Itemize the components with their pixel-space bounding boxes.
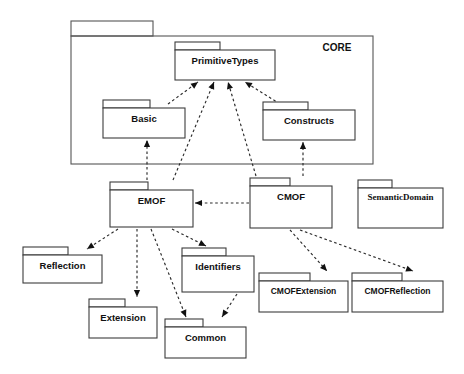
dependency-cmof-to-emof [195, 200, 249, 206]
package-emof[interactable]: EMOF [110, 182, 193, 227]
package-tab-common [165, 319, 203, 327]
dependency-cmof-to-cmofextension [290, 230, 329, 273]
package-label-common: Common [185, 332, 226, 343]
dependency-basic-to-primitivetypes [168, 80, 200, 104]
package-tab-constructs [263, 102, 308, 110]
package-tab-cmofreflection [352, 273, 402, 281]
uml-package-diagram: CORE PrimitiveTypesBasicConstructsEMOFCM… [0, 0, 464, 374]
diagram-canvas: CORE PrimitiveTypesBasicConstructsEMOFCM… [0, 0, 464, 374]
package-tab-emof [110, 182, 148, 190]
package-tab-reflection [23, 247, 68, 255]
dependency-emof-to-basic [144, 140, 150, 180]
package-tab-semanticdomain [358, 180, 392, 188]
dependency-arrowhead [300, 142, 306, 149]
package-extension[interactable]: Extension [89, 299, 157, 338]
package-tab-cmofextension [259, 273, 310, 281]
dependency-arrowhead [225, 81, 233, 89]
dependency-arrowhead [195, 200, 202, 206]
dependency-identifiers-to-common [219, 294, 237, 319]
dependency-line [151, 229, 186, 317]
core-package[interactable]: CORE [71, 21, 373, 164]
package-cmof[interactable]: CMOF [250, 178, 332, 228]
package-label-basic: Basic [131, 113, 156, 124]
package-label-emof: EMOF [138, 195, 166, 206]
dependency-arrowhead [144, 140, 150, 147]
package-cmofextension[interactable]: CMOFExtension [259, 273, 348, 312]
package-basic[interactable]: Basic [103, 100, 185, 138]
package-tab-cmof [250, 178, 290, 186]
dependency-arrowhead [181, 309, 189, 318]
package-tab-basic [103, 100, 150, 108]
package-common[interactable]: Common [165, 319, 246, 358]
package-label-cmof: CMOF [277, 191, 305, 202]
core-package-label: CORE [323, 42, 352, 53]
package-tab-identifiers [182, 248, 226, 256]
dependency-arrowhead [208, 81, 216, 90]
dependency-arrowhead [134, 290, 140, 297]
package-reflection[interactable]: Reflection [23, 247, 102, 283]
package-label-semanticdomain: SemanticDomain [368, 192, 434, 202]
dependency-arrowhead [191, 80, 200, 89]
package-label-cmofextension: CMOFExtension [271, 286, 337, 296]
dependency-arrowhead [405, 266, 414, 274]
dependency-emof-to-identifiers [172, 229, 207, 249]
dependency-arrowhead [85, 243, 94, 252]
package-primitivetypes[interactable]: PrimitiveTypes [175, 42, 275, 80]
dependency-line [228, 82, 256, 176]
dependency-arrowhead [243, 79, 252, 88]
dependency-cmof-to-constructs [300, 142, 306, 176]
dependency-cmof-to-cmofreflection [300, 230, 414, 274]
dependency-line [300, 230, 413, 271]
dependency-cmof-to-primitivetypes [225, 81, 256, 176]
package-identifiers[interactable]: Identifiers [182, 248, 254, 292]
package-label-identifiers: Identifiers [195, 261, 240, 272]
package-constructs[interactable]: Constructs [263, 102, 355, 140]
package-nodes: PrimitiveTypesBasicConstructsEMOFCMOFSem… [23, 42, 443, 358]
package-label-cmofreflection: CMOFReflection [364, 286, 430, 296]
dependency-emof-to-reflection [85, 229, 118, 252]
package-tab-extension [89, 299, 125, 307]
dependency-line [290, 230, 327, 271]
package-label-constructs: Constructs [284, 115, 334, 126]
dependency-arrowhead [219, 309, 228, 318]
core-package-tab [71, 21, 153, 36]
package-tab-primitivetypes [175, 42, 220, 50]
package-label-primitivetypes: PrimitiveTypes [192, 55, 259, 66]
package-label-reflection: Reflection [40, 260, 86, 271]
package-label-extension: Extension [100, 312, 146, 323]
dependency-constructs-to-primitivetypes [243, 79, 280, 104]
package-semanticdomain[interactable]: SemanticDomain [358, 180, 443, 228]
dependency-emof-to-extension [134, 229, 140, 297]
package-cmofreflection[interactable]: CMOFReflection [352, 273, 443, 312]
